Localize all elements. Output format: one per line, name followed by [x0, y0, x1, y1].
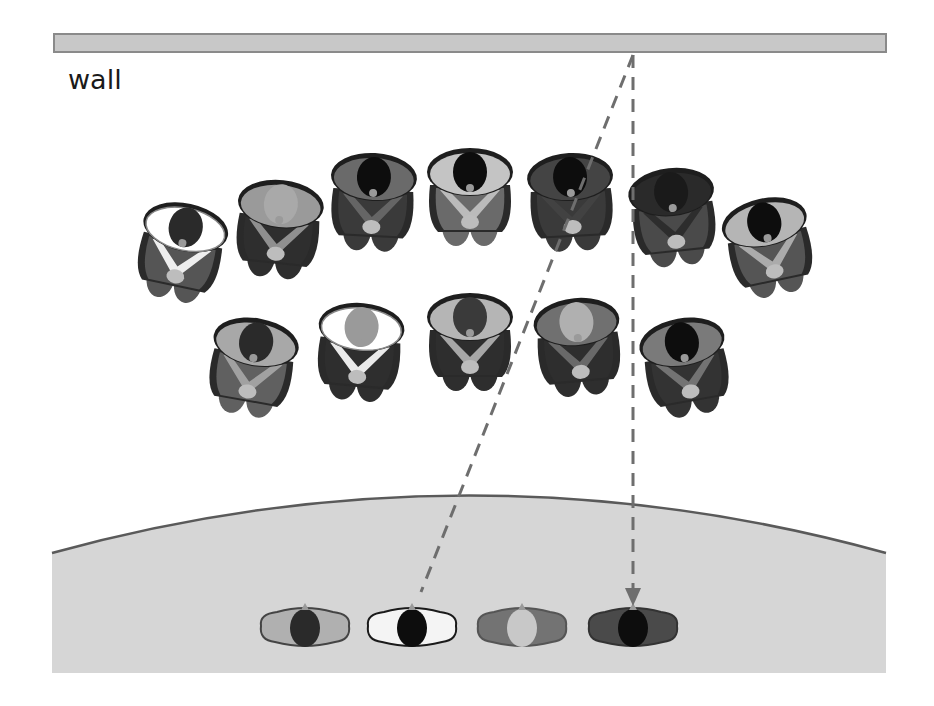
audience-member [526, 151, 617, 253]
audience-member [327, 151, 418, 253]
head-icon [290, 609, 320, 647]
audience-member [427, 148, 513, 246]
head-icon [397, 609, 427, 647]
audience-member [626, 164, 722, 270]
audience-member [427, 293, 513, 391]
audience-member [201, 311, 303, 422]
audience-member [230, 176, 326, 282]
stage-area [52, 496, 886, 674]
audience-member [312, 299, 406, 404]
wall-bar [54, 34, 886, 52]
wall-label: wall [68, 64, 122, 95]
head-icon [507, 609, 537, 647]
head-icon [618, 609, 648, 647]
audience-member [532, 294, 626, 399]
audience-member [717, 190, 821, 304]
audience-member [128, 195, 232, 309]
venue-diagram [0, 0, 934, 706]
audience-group [128, 148, 821, 423]
audience-member [635, 311, 737, 422]
